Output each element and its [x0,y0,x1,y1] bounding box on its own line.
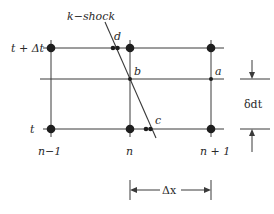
point-c-left [144,127,149,132]
label-b: b [134,65,141,78]
column-label-n-plus-1: n + 1 [200,145,230,158]
label-c: c [155,114,161,127]
point-d-right [115,46,120,51]
dim-horizontal-label: Δx [162,184,177,197]
k-shock-label: k−shock [67,10,115,23]
node-n-minus-1-t-plus-dt [47,44,56,53]
node-n-t-plus-dt [126,44,135,53]
time-label-t-plus-dt: t + Δt [11,42,45,55]
node-n-plus-1-t [207,125,216,134]
node-n-t [126,125,135,134]
point-d-left [111,46,116,51]
arrow-down-icon [249,72,255,79]
point-b [128,77,132,81]
node-n-minus-1-t [47,125,56,134]
column-label-n-minus-1: n−1 [38,145,61,158]
label-a: a [215,65,222,78]
time-label-t: t [30,123,35,136]
column-label-n: n [126,145,133,158]
arrow-up-icon [249,129,255,136]
point-a [209,77,213,81]
label-d: d [114,30,121,43]
finite-difference-shock-diagram: k−shock d b a c t + Δt t n−1 n n + 1 δdt… [0,0,274,214]
dim-vertical-label: δdt [244,98,263,111]
arrow-left-icon [130,187,137,193]
point-c-right [148,127,153,132]
arrow-right-icon [204,187,211,193]
node-n-plus-1-t-plus-dt [207,44,216,53]
